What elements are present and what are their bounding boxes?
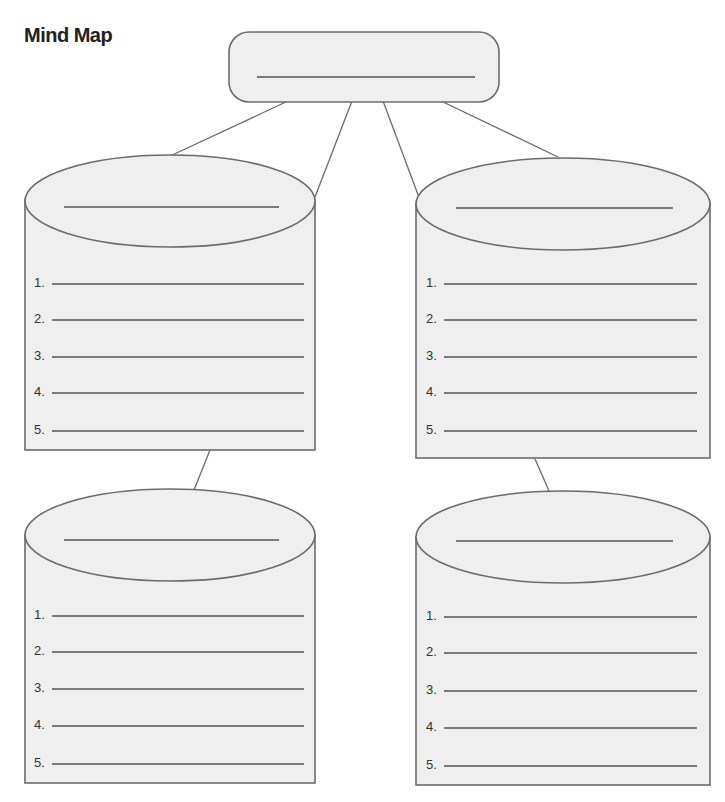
node-top-left[interactable] xyxy=(25,155,315,450)
item-number: 5. xyxy=(426,422,437,437)
item-number: 1. xyxy=(34,607,45,622)
item-number: 3. xyxy=(34,348,45,363)
item-number: 3. xyxy=(426,682,437,697)
item-number: 1. xyxy=(426,275,437,290)
item-number: 1. xyxy=(426,608,437,623)
item-number: 4. xyxy=(426,719,437,734)
item-number: 2. xyxy=(426,311,437,326)
item-number: 4. xyxy=(34,384,45,399)
item-number: 3. xyxy=(426,348,437,363)
item-number: 5. xyxy=(34,755,45,770)
item-number: 4. xyxy=(426,384,437,399)
mind-map-diagram xyxy=(0,0,725,802)
node-top-right[interactable] xyxy=(416,158,710,458)
item-number: 2. xyxy=(34,311,45,326)
item-number: 2. xyxy=(426,644,437,659)
item-number: 3. xyxy=(34,680,45,695)
node-bottom-left[interactable] xyxy=(25,489,315,783)
item-number: 5. xyxy=(426,757,437,772)
item-number: 1. xyxy=(34,275,45,290)
node-bottom-right[interactable] xyxy=(416,491,710,785)
central-topic-box[interactable] xyxy=(229,32,499,102)
item-number: 5. xyxy=(34,422,45,437)
item-number: 4. xyxy=(34,717,45,732)
item-number: 2. xyxy=(34,643,45,658)
